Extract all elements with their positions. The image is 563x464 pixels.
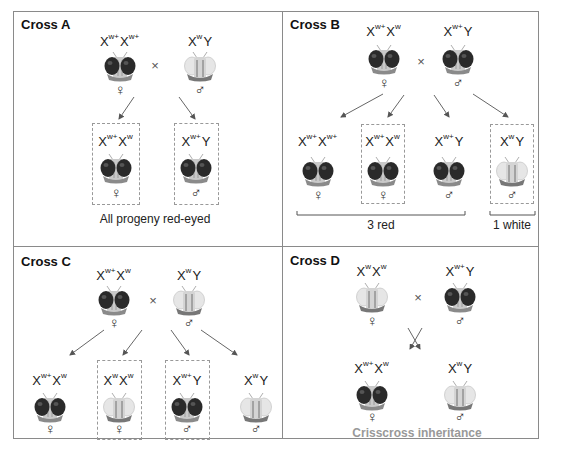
cross-symbol: × xyxy=(149,293,157,308)
female-symbol: ♀ xyxy=(113,421,124,436)
fly-red-eye-icon xyxy=(442,45,474,75)
female-symbol: ♀ xyxy=(366,313,377,328)
female-symbol: ♀ xyxy=(108,315,119,330)
panel-title-cross-d: Cross D xyxy=(290,253,340,268)
fly-red-eye-icon xyxy=(34,393,66,423)
fly-red-eye-icon xyxy=(180,154,212,184)
genotype-parent-female: XwXw xyxy=(357,264,388,279)
female-symbol: ♀ xyxy=(114,82,125,97)
female-symbol: ♀ xyxy=(366,409,377,424)
fly-white-eye-icon xyxy=(444,381,476,411)
female-symbol: ♀ xyxy=(312,187,323,202)
fly-white-eye-icon xyxy=(356,283,388,313)
genotype-progeny: XwY xyxy=(500,134,524,149)
male-symbol: ♂ xyxy=(452,75,463,90)
fly-white-eye-icon xyxy=(103,393,135,423)
arrows-layer xyxy=(0,0,563,464)
genotype-progeny-male: Xw+Y xyxy=(182,134,211,149)
male-symbol: ♂ xyxy=(454,409,465,424)
genotype-parent-female: Xw+Xw xyxy=(96,268,132,283)
panel-title-cross-b: Cross B xyxy=(290,17,340,32)
genotype-parent-male: XwY xyxy=(177,268,201,283)
genotype-progeny: Xw+Xw xyxy=(32,373,68,388)
panel-title-cross-c: Cross C xyxy=(21,254,71,269)
fly-red-eye-icon xyxy=(171,393,203,423)
genotype-progeny: Xw+Xw+ xyxy=(298,134,338,149)
fly-red-eye-icon xyxy=(433,157,465,187)
bracket-lines xyxy=(297,211,535,215)
fly-red-eye-icon xyxy=(444,283,476,313)
male-symbol: ♂ xyxy=(506,187,517,202)
genotype-parent-female: Xw+Xw xyxy=(366,24,402,39)
genotype-progeny-female: Xw+Xw xyxy=(354,361,390,376)
male-symbol: ♂ xyxy=(250,421,261,436)
genotype-progeny-male: XwY xyxy=(448,361,472,376)
panel-title-cross-a: Cross A xyxy=(21,17,70,32)
female-symbol: ♀ xyxy=(110,185,121,200)
fly-red-eye-icon xyxy=(104,52,136,82)
male-symbol: ♂ xyxy=(181,421,192,436)
fly-white-eye-icon xyxy=(184,52,216,82)
cross-symbol: × xyxy=(414,290,422,305)
bracket-label-red: 3 red xyxy=(367,218,394,232)
genotype-progeny: XwXw xyxy=(104,373,135,388)
genotype-parent-male: Xw+Y xyxy=(444,24,473,39)
fly-red-eye-icon xyxy=(356,381,388,411)
genotype-parent-female: Xw+Xw+ xyxy=(100,34,140,49)
cross-symbol: × xyxy=(417,54,425,69)
genotype-progeny: Xw+Xw xyxy=(365,134,401,149)
genotype-progeny: Xw+Y xyxy=(435,134,464,149)
fly-white-eye-icon xyxy=(496,157,528,187)
caption-crisscross-inheritance: Crisscross inheritance xyxy=(352,426,481,440)
male-symbol: ♂ xyxy=(183,315,194,330)
female-symbol: ♀ xyxy=(377,187,388,202)
male-symbol: ♂ xyxy=(194,82,205,97)
genotype-progeny-female: Xw+Xw xyxy=(98,134,134,149)
caption-all-progeny-red: All progeny red-eyed xyxy=(100,212,211,226)
male-symbol: ♂ xyxy=(454,313,465,328)
female-symbol: ♀ xyxy=(378,75,389,90)
bracket-label-white: 1 white xyxy=(493,218,531,232)
female-symbol: ♀ xyxy=(44,421,55,436)
fly-red-eye-icon xyxy=(367,157,399,187)
fly-red-eye-icon xyxy=(98,286,130,316)
fly-red-eye-icon xyxy=(302,157,334,187)
male-symbol: ♂ xyxy=(443,187,454,202)
genotype-progeny: Xw+Y xyxy=(173,373,202,388)
fly-white-eye-icon xyxy=(173,286,205,316)
male-symbol: ♂ xyxy=(190,185,201,200)
genotype-progeny: XwY xyxy=(244,373,268,388)
genotype-parent-male: XwY xyxy=(188,34,212,49)
fly-red-eye-icon xyxy=(368,45,400,75)
genotype-parent-male: Xw+Y xyxy=(446,264,475,279)
fly-red-eye-icon xyxy=(100,154,132,184)
fly-white-eye-icon xyxy=(240,393,272,423)
cross-symbol: × xyxy=(151,58,159,73)
